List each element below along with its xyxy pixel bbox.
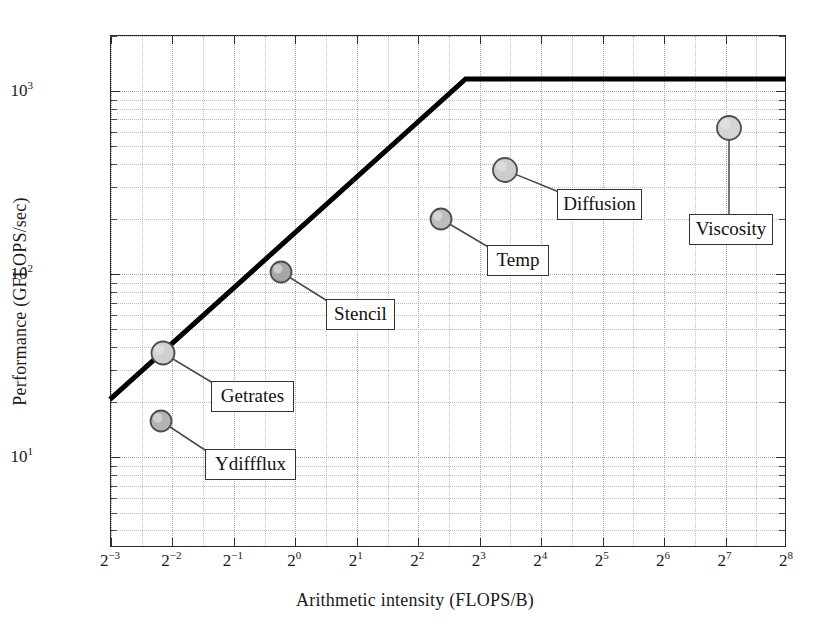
callout-temp[interactable]: Temp xyxy=(487,245,549,276)
data-point-viscosity[interactable] xyxy=(717,116,741,140)
callout-viscosity[interactable]: Viscosity xyxy=(689,214,773,245)
data-point-temp[interactable] xyxy=(431,209,452,230)
marker-highlight xyxy=(154,344,164,354)
roofline-chart-figure: 2−32−22−1202122232425262728 103102101 Ar… xyxy=(0,0,830,635)
roofline-curve xyxy=(110,79,786,399)
marker-highlight xyxy=(433,211,442,220)
marker-highlight xyxy=(496,161,507,172)
chart-data-layer xyxy=(0,0,830,635)
data-point-getrates[interactable] xyxy=(152,342,175,365)
marker-highlight xyxy=(273,264,282,273)
callout-getrates[interactable]: Getrates xyxy=(211,381,294,412)
callout-diffusion[interactable]: Diffusion xyxy=(557,189,642,220)
data-point-ydiffflux[interactable] xyxy=(151,411,172,432)
data-point-stencil[interactable] xyxy=(271,262,292,283)
callout-stencil[interactable]: Stencil xyxy=(326,299,395,330)
marker-highlight xyxy=(720,119,731,130)
callout-ydiffflux[interactable]: Ydiffflux xyxy=(205,449,296,480)
data-point-diffusion[interactable] xyxy=(493,158,517,182)
marker-highlight xyxy=(153,413,162,422)
